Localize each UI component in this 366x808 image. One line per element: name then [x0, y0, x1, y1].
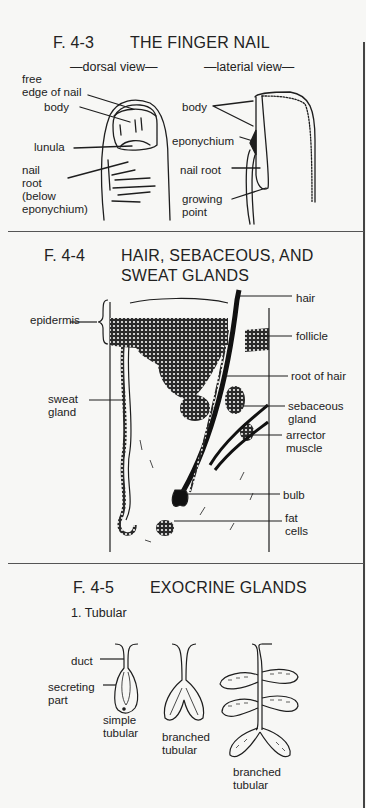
exocrine-glands-illustration	[0, 0, 366, 808]
